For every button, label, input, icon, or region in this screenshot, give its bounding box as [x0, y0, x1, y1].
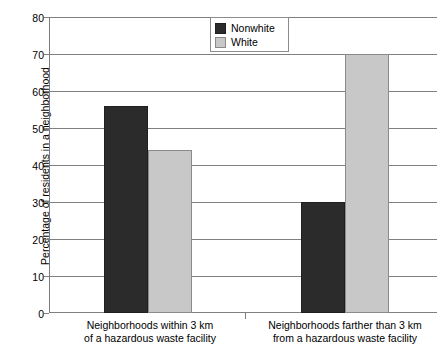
y-tick-mark-0	[44, 313, 49, 314]
legend-label-nonwhite: Nonwhite	[231, 23, 275, 34]
legend-swatch-nonwhite-icon	[215, 23, 226, 34]
x-tick-center	[245, 313, 246, 319]
bar-group1-nonwhite	[104, 106, 148, 313]
y-tick-label-50: 50	[4, 124, 44, 134]
legend-item-nonwhite: Nonwhite	[215, 21, 284, 35]
y-tick-label-70: 70	[4, 50, 44, 60]
bar-group2-white	[345, 54, 389, 313]
y-tick-label-60: 60	[4, 87, 44, 97]
category-label-2-line1: Neighborhoods farther than 3 km	[250, 319, 440, 332]
plot-inner	[50, 17, 436, 313]
legend-swatch-white-icon	[215, 37, 226, 48]
y-tick-label-10: 10	[4, 272, 44, 282]
category-label-1-line1: Neighborhoods within 3 km	[60, 319, 240, 332]
plot-area	[49, 17, 436, 313]
legend: Nonwhite White	[210, 17, 289, 52]
category-label-1-line2: of a hazardous waste facility	[60, 332, 240, 345]
y-tick-label-0: 0	[4, 309, 44, 319]
bar-chart: Percentage of residents in a neighborhoo…	[0, 0, 445, 353]
y-tick-label-20: 20	[4, 235, 44, 245]
bar-group1-white	[148, 150, 192, 313]
y-tick-label-80: 80	[4, 13, 44, 23]
category-label-2: Neighborhoods farther than 3 km from a h…	[250, 319, 440, 345]
y-tick-label-40: 40	[4, 161, 44, 171]
legend-label-white: White	[231, 37, 258, 48]
bar-group2-nonwhite	[301, 202, 345, 313]
category-label-1: Neighborhoods within 3 km of a hazardous…	[60, 319, 240, 345]
y-tick-label-30: 30	[4, 198, 44, 208]
legend-item-white: White	[215, 35, 284, 49]
category-label-2-line2: from a hazardous waste facility	[250, 332, 440, 345]
